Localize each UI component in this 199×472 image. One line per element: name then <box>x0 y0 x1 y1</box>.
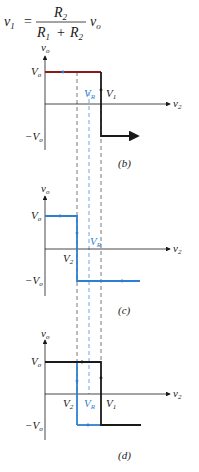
guide-lines <box>77 72 101 394</box>
svg-text:vo: vo <box>90 14 101 31</box>
caption-d: (d) <box>118 449 131 462</box>
svg-text:v2: v2 <box>173 97 182 111</box>
svg-text:vo: vo <box>41 327 50 341</box>
caption-c: (c) <box>118 304 131 317</box>
svg-text:−Vo: −Vo <box>25 274 43 288</box>
svg-text:vo: vo <box>41 182 50 196</box>
svg-text:VR: VR <box>84 397 96 411</box>
svg-text:Vo: Vo <box>31 65 42 79</box>
graph-c: vo v2 Vo −Vo V2 VR (c) <box>25 182 182 317</box>
svg-text:V2: V2 <box>63 252 74 266</box>
svg-text:V1: V1 <box>106 87 116 101</box>
svg-text:R2: R2 <box>53 5 68 22</box>
svg-text:R2: R2 <box>69 25 84 42</box>
svg-text:V1: V1 <box>106 397 116 411</box>
svg-text:v1: v1 <box>4 14 15 31</box>
svg-text:VR: VR <box>84 87 96 101</box>
svg-text:VR: VR <box>90 235 102 249</box>
svg-text:=: = <box>24 14 32 29</box>
svg-text:−Vo: −Vo <box>25 130 43 144</box>
svg-text:Vo: Vo <box>31 209 42 223</box>
caption-b: (b) <box>118 157 131 170</box>
svg-text:Vo: Vo <box>31 355 42 369</box>
svg-text:vo: vo <box>41 41 50 55</box>
graph-d: vo v2 Vo −Vo V2 VR V1 (d) <box>25 327 182 462</box>
equation: v1 = R2 R1 + R2 vo <box>4 5 101 42</box>
svg-text:V2: V2 <box>63 397 74 411</box>
svg-text:−Vo: −Vo <box>25 419 43 433</box>
hysteresis-diagram: v1 = R2 R1 + R2 vo vo v2 Vo −Vo VR V1 (b… <box>0 0 199 472</box>
svg-text:v2: v2 <box>173 242 182 256</box>
svg-text:v2: v2 <box>173 387 182 401</box>
graph-b: vo v2 Vo −Vo VR V1 (b) <box>25 41 182 170</box>
svg-text:R1: R1 <box>36 25 50 42</box>
svg-text:+: + <box>57 25 65 40</box>
